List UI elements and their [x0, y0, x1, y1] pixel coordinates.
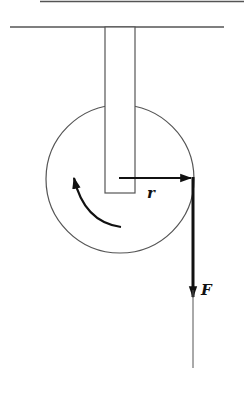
support-rod [105, 27, 135, 193]
pulley-torque-diagram: r F [0, 0, 244, 395]
force-label: F [200, 281, 213, 299]
radius-label: r [147, 184, 156, 202]
